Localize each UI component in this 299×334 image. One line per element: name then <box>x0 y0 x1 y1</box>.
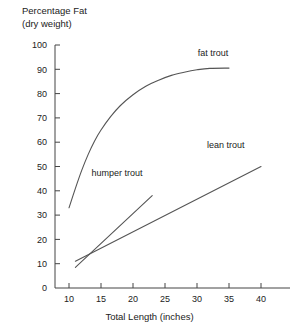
x-tick-label: 10 <box>64 294 74 304</box>
x-axis-title: Total Length (inches) <box>0 311 299 322</box>
series-label-lean-trout: lean trout <box>207 140 245 150</box>
x-tick-group: 10152025303540 <box>64 283 266 304</box>
y-tick-label: 20 <box>37 235 47 245</box>
chart-canvas: 0102030405060708090100 10152025303540 fa… <box>0 0 299 334</box>
series-label-fat-trout: fat trout <box>198 48 229 58</box>
x-tick-label: 35 <box>224 294 234 304</box>
annotation-group: fat troutlean trouthumper trout <box>91 48 245 178</box>
y-tick-label: 90 <box>37 65 47 75</box>
y-tick-label: 70 <box>37 113 47 123</box>
series-label-humper-trout: humper trout <box>91 168 143 178</box>
x-tick-label: 15 <box>96 294 106 304</box>
series-line-fat-trout <box>69 68 229 208</box>
y-tick-label: 60 <box>37 137 47 147</box>
y-tick-label: 10 <box>37 259 47 269</box>
x-tick-label: 30 <box>192 294 202 304</box>
series-line-humper-trout <box>75 196 152 268</box>
series-line-lean-trout <box>75 167 261 262</box>
y-tick-label: 40 <box>37 186 47 196</box>
y-tick-label: 100 <box>32 40 47 50</box>
chart-page: Percentage Fat (dry weight) 010203040506… <box>0 0 299 334</box>
y-tick-label: 50 <box>37 162 47 172</box>
y-tick-label: 80 <box>37 89 47 99</box>
x-tick-label: 40 <box>256 294 266 304</box>
axes-group <box>55 45 290 288</box>
y-tick-label: 30 <box>37 210 47 220</box>
x-tick-label: 25 <box>160 294 170 304</box>
x-tick-label: 20 <box>128 294 138 304</box>
y-tick-group: 0102030405060708090100 <box>32 40 60 293</box>
y-tick-label: 0 <box>42 283 47 293</box>
